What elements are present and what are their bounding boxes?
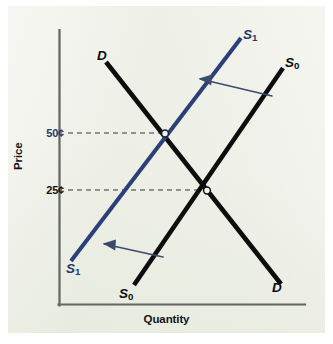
supply0-label-top-subscript: 0 xyxy=(294,60,299,71)
equilibrium-dot-50c xyxy=(162,130,169,137)
supply1-label-bottom-letter: S xyxy=(66,261,75,276)
chart-canvas xyxy=(0,0,333,344)
supply1-curve xyxy=(71,38,241,261)
supply-demand-figure: 50¢ 25¢ Price Quantity D D S0 S0 S1 S1 xyxy=(0,0,333,344)
equilibrium-dot-25c xyxy=(204,187,211,194)
supply1-label-top: S1 xyxy=(243,28,257,43)
supply0-label-top-letter: S xyxy=(285,55,294,70)
supply1-label-bottom: S1 xyxy=(66,262,80,277)
supply1-label-top-letter: S xyxy=(243,27,252,42)
supply0-label-top: S0 xyxy=(285,56,299,71)
tick-label-25c: 25¢ xyxy=(12,185,64,196)
supply0-curve xyxy=(134,68,283,285)
demand-label-bottom: D xyxy=(272,281,282,295)
demand-label-top: D xyxy=(97,49,107,63)
supply0-label-bottom-subscript: 0 xyxy=(128,291,133,302)
supply1-label-top-subscript: 1 xyxy=(252,32,257,43)
x-axis-title: Quantity xyxy=(0,313,333,325)
supply0-label-bottom-letter: S xyxy=(119,286,128,301)
supply0-label-bottom: S0 xyxy=(119,287,133,302)
shift-arrow-lower xyxy=(103,240,163,258)
supply1-label-bottom-subscript: 1 xyxy=(75,266,80,277)
shift-arrow-upper xyxy=(199,75,272,97)
y-axis-title: Price xyxy=(12,110,24,170)
